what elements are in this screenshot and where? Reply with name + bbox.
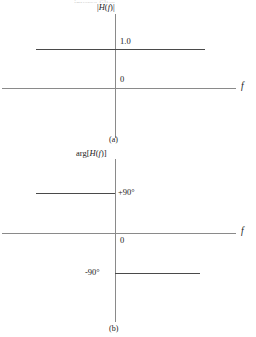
frequency-axis-b: [2, 233, 236, 234]
tick-label-one-point-zero: 1.0: [120, 37, 131, 46]
tick-label-zero-b: 0: [120, 236, 124, 245]
vertical-axis-b: [115, 159, 116, 322]
frequency-response-figure: inverse filter |H(f)| 1.0 0 f (a) arg[H(…: [0, 0, 256, 337]
ordinate-label-a: |H(f)|: [97, 3, 115, 12]
ordinate-label-a-suffix: |: [113, 2, 115, 12]
vertical-axis-a: [115, 14, 116, 138]
panel-caption-b: (b): [109, 325, 118, 333]
tick-label-zero-a: 0: [120, 75, 124, 84]
magnitude-response-trace: [36, 49, 205, 50]
phase-trace-positive-frequency: [115, 273, 200, 274]
panel-magnitude: |H(f)| 1.0 0 f (a): [0, 0, 256, 150]
tick-label-minus-ninety: -90°: [85, 268, 100, 277]
phase-trace-negative-frequency: [36, 193, 115, 194]
panel-phase: arg[H(f)] +90° 0 -90° f (b): [0, 150, 256, 337]
ordinate-label-b-prefix: arg[: [76, 148, 90, 158]
panel-caption-a: (a): [109, 136, 118, 144]
frequency-axis-label-b: f: [241, 227, 244, 237]
ordinate-label-b: arg[H(f)]: [76, 149, 107, 158]
tick-label-plus-ninety: +90°: [118, 188, 135, 197]
ordinate-label-b-suffix: ]: [104, 148, 107, 158]
frequency-axis-a: [2, 88, 236, 89]
frequency-axis-label-a: f: [241, 82, 244, 92]
